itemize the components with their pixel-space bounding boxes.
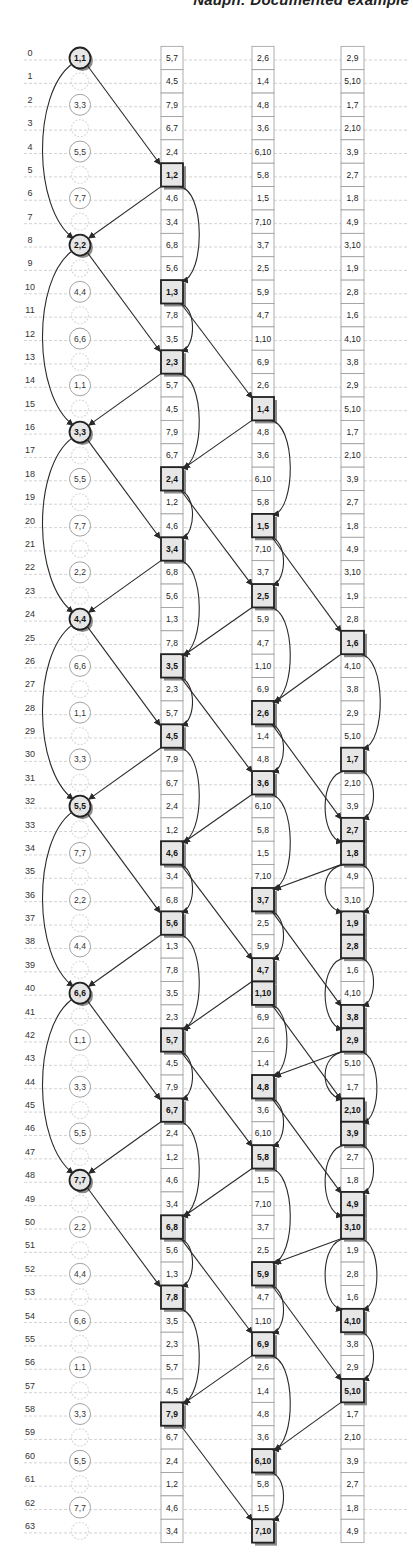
ghost-circle [72,1055,89,1072]
pair-label: 2,4 [166,801,178,811]
row-number: 46 [25,1123,35,1133]
row-number: 20 [25,516,35,526]
ghost-circle [72,915,89,932]
pair-label: 4,8 [257,754,269,764]
row-number: 31 [25,773,35,783]
row-number: 50 [25,1217,35,1227]
arrow-edge [275,1052,341,1076]
pair-label: 1,7 [347,754,359,764]
row-number: 44 [25,1077,35,1087]
row-number: 39 [25,960,35,970]
pair-label: 3,4 [166,544,178,554]
pair-label: 7,9 [166,1082,178,1092]
pair-label: 2,6 [257,708,269,718]
pair-label: 3,6 [257,1105,269,1115]
row-number: 22 [25,562,35,572]
pair-label: 1,6 [347,310,359,320]
pair-label: 1,5 [257,521,269,531]
pair-label: 2,7 [347,497,359,507]
circle-label: 1,1 [74,1362,86,1372]
pair-label: 2,4 [166,1456,178,1466]
pair-label: 5,6 [166,591,178,601]
pair-label: 2,8 [347,941,359,951]
pair-label: 3,4 [166,1199,178,1209]
pair-label: 1,3 [166,614,178,624]
pair-label: 6,10 [255,147,272,157]
pair-label: 1,9 [347,1245,359,1255]
ghost-circle [72,447,89,464]
circle-label: 4,4 [74,1269,86,1279]
pair-label: 2,3 [166,1339,178,1349]
pair-label: 3,7 [257,895,269,905]
pair-label: 3,6 [257,778,269,788]
row-number: 12 [25,329,35,339]
pair-label: 3,10 [344,895,361,905]
circle-label: 2,2 [74,895,86,905]
pair-label: 7,9 [166,427,178,437]
pair-label: 5,6 [166,918,178,928]
circle-label: 1,1 [74,1035,86,1045]
row-number: 10 [25,282,35,292]
pair-label: 4,8 [257,427,269,437]
pair-label: 5,10 [344,1386,361,1396]
pair-label: 1,5 [257,848,269,858]
pair-label: 1,4 [257,731,269,741]
pair-label: 7,9 [166,100,178,110]
arrow-edge [89,748,161,799]
pair-label: 1,9 [347,591,359,601]
pair-label: 7,8 [166,1292,178,1302]
pair-label: 5,7 [166,1035,178,1045]
pair-label: 1,2 [166,497,178,507]
circle-label: 3,3 [74,1082,86,1092]
arrow-edge [87,252,160,351]
pair-label: 2,4 [166,147,178,157]
row-number: 7 [27,212,32,222]
row-number: 0 [27,48,32,58]
arrow-edge [42,64,73,238]
pair-label: 4,5 [166,731,178,741]
row-number: 38 [25,936,35,946]
pair-label: 1,9 [347,263,359,273]
arrow-edge [89,935,161,986]
pair-label: 1,2 [166,825,178,835]
ghost-circle [72,166,89,183]
pair-label: 3,9 [347,801,359,811]
row-number: 49 [25,1194,35,1204]
pair-label: 5,9 [257,1269,269,1279]
circle-label: 3,3 [74,1409,86,1419]
row-number: 52 [25,1264,35,1274]
pair-label: 7,9 [166,754,178,764]
pair-label: 4,8 [257,1409,269,1419]
row-number: 18 [25,469,35,479]
row-number: 21 [25,539,35,549]
pair-label: 3,9 [347,1456,359,1466]
pair-label: 2,5 [257,591,269,601]
pair-label: 6,8 [166,895,178,905]
pair-label: 3,5 [166,988,178,998]
circle-column: 1,13,35,57,72,24,46,61,13,35,57,72,24,46… [70,48,94,1540]
row-number: 16 [25,422,35,432]
ghost-circle [72,1476,89,1493]
pair-label: 4,10 [344,988,361,998]
ghost-circle [72,1242,89,1259]
circle-label: 6,6 [74,661,86,671]
pair-label: 6,9 [257,357,269,367]
row-number: 60 [25,1451,35,1461]
arrow-edge [87,813,160,912]
pair-label: 2,9 [347,1362,359,1372]
pair-label: 3,8 [347,684,359,694]
pair-label: 7,10 [255,544,272,554]
arrow-edge [87,65,160,164]
pair-label: 4,10 [344,1316,361,1326]
pair-label: 5,8 [257,1479,269,1489]
pair-label: 1,2 [166,170,178,180]
pair-label: 4,8 [257,100,269,110]
pair-label: 6,7 [166,778,178,788]
row-number: 58 [25,1404,35,1414]
pair-label: 3,5 [166,1316,178,1326]
pair-label: 1,7 [347,427,359,437]
pair-label: 1,4 [257,76,269,86]
pair-label: 6,10 [255,801,272,811]
pair-label: 5,9 [257,614,269,624]
pair-label: 6,7 [166,1432,178,1442]
